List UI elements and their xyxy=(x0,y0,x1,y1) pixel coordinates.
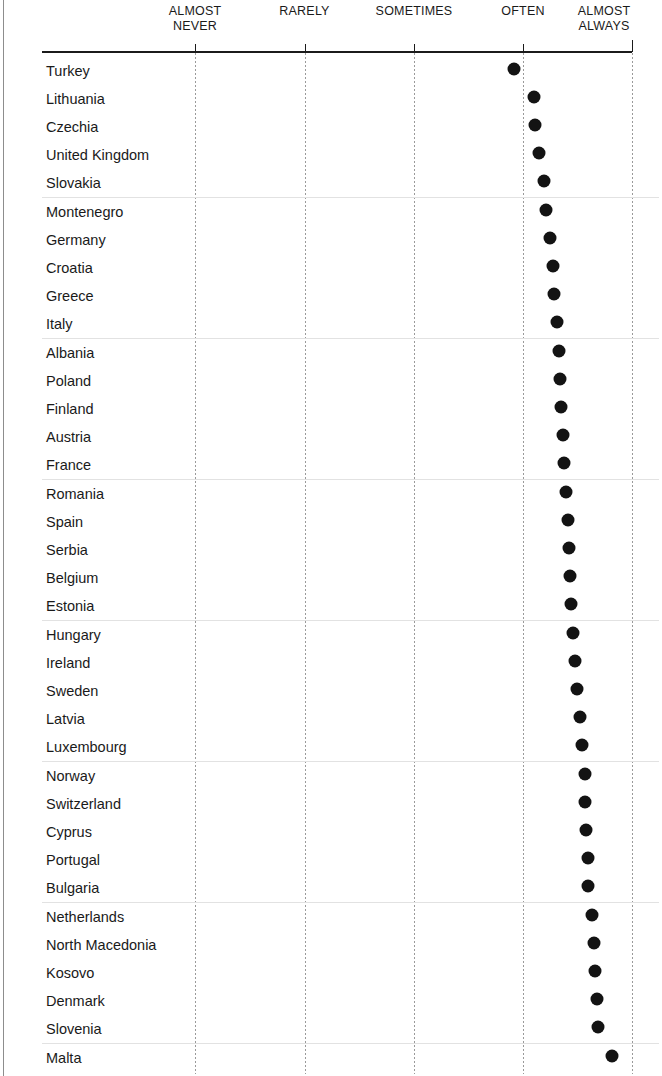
vertical-gridline-2 xyxy=(305,53,306,1074)
chart-page: ALMOST NEVERRARELYSOMETIMESOFTENALMOST A… xyxy=(0,0,662,1076)
horizontal-gridline xyxy=(42,620,659,621)
vertical-gridline-3 xyxy=(414,53,415,1074)
axis-tick-label-3: SOMETIMES xyxy=(376,4,453,19)
data-point xyxy=(537,175,550,188)
axis-tick-4 xyxy=(523,44,524,52)
data-point xyxy=(563,570,576,583)
horizontal-gridline xyxy=(42,761,659,762)
category-label: Italy xyxy=(46,316,73,332)
category-label: Greece xyxy=(46,288,94,304)
category-label: Cyprus xyxy=(46,824,92,840)
data-point xyxy=(554,400,567,413)
data-point xyxy=(557,429,570,442)
category-label: Croatia xyxy=(46,260,93,276)
axis-header xyxy=(0,0,662,46)
data-point xyxy=(606,1049,619,1062)
category-label: Portugal xyxy=(46,852,100,868)
data-point xyxy=(567,626,580,639)
category-label: Montenegro xyxy=(46,204,123,220)
data-point xyxy=(579,767,592,780)
category-label: Sweden xyxy=(46,683,98,699)
category-label: Switzerland xyxy=(46,796,121,812)
data-point xyxy=(550,316,563,329)
data-point xyxy=(580,823,593,836)
category-label: Spain xyxy=(46,514,83,530)
data-point xyxy=(569,654,582,667)
data-point xyxy=(561,513,574,526)
category-label: Norway xyxy=(46,768,95,784)
axis-tick-label-1: ALMOST NEVER xyxy=(169,4,222,33)
category-label: Kosovo xyxy=(46,965,94,981)
data-point xyxy=(548,288,561,301)
category-label: Serbia xyxy=(46,542,88,558)
horizontal-gridline xyxy=(42,338,659,339)
vertical-gridline-5 xyxy=(632,53,633,1074)
category-label: France xyxy=(46,457,91,473)
category-label: Bulgaria xyxy=(46,880,99,896)
category-label: Estonia xyxy=(46,598,94,614)
data-point xyxy=(575,739,588,752)
data-point xyxy=(587,936,600,949)
data-point xyxy=(560,485,573,498)
category-label: Slovenia xyxy=(46,1021,102,1037)
category-label: Latvia xyxy=(46,711,85,727)
category-label: Albania xyxy=(46,345,94,361)
axis-tick-5 xyxy=(632,40,633,52)
category-label: Netherlands xyxy=(46,909,124,925)
axis-tick-label-4: OFTEN xyxy=(501,4,544,19)
data-point xyxy=(527,90,540,103)
axis-line xyxy=(42,51,632,53)
horizontal-gridline xyxy=(42,1043,659,1044)
category-label: North Macedonia xyxy=(46,937,156,953)
data-point xyxy=(547,259,560,272)
page-edge-line xyxy=(3,0,4,1076)
category-label: Finland xyxy=(46,401,94,417)
data-point xyxy=(573,711,586,724)
axis-tick-1 xyxy=(195,44,196,52)
axis-tick-3 xyxy=(414,44,415,52)
data-point xyxy=(558,457,571,470)
category-label: Turkey xyxy=(46,63,90,79)
category-label: Austria xyxy=(46,429,91,445)
data-point xyxy=(553,372,566,385)
horizontal-gridline xyxy=(42,902,659,903)
vertical-gridline-4 xyxy=(523,53,524,1074)
category-label: Ireland xyxy=(46,655,90,671)
horizontal-gridline xyxy=(42,197,659,198)
data-point xyxy=(585,908,598,921)
category-label: Malta xyxy=(46,1050,81,1066)
data-point xyxy=(544,231,557,244)
data-point xyxy=(592,1021,605,1034)
category-label: Lithuania xyxy=(46,91,105,107)
data-point xyxy=(508,62,521,75)
data-point xyxy=(562,541,575,554)
data-point xyxy=(539,203,552,216)
category-label: Denmark xyxy=(46,993,105,1009)
category-label: Luxembourg xyxy=(46,739,127,755)
category-label: Poland xyxy=(46,373,91,389)
category-label: Germany xyxy=(46,232,106,248)
category-label: Romania xyxy=(46,486,104,502)
data-point xyxy=(591,993,604,1006)
category-label: United Kingdom xyxy=(46,147,149,163)
data-point xyxy=(571,682,584,695)
category-label: Hungary xyxy=(46,627,101,643)
axis-tick-2 xyxy=(305,44,306,52)
category-label: Slovakia xyxy=(46,175,101,191)
data-point xyxy=(528,118,541,131)
vertical-gridline-1 xyxy=(195,53,196,1074)
axis-tick-label-5: ALMOST ALWAYS xyxy=(578,4,631,33)
axis-tick-label-2: RARELY xyxy=(279,4,329,19)
category-label: Belgium xyxy=(46,570,98,586)
data-point xyxy=(588,964,601,977)
horizontal-gridline xyxy=(42,479,659,480)
data-point xyxy=(582,852,595,865)
data-point xyxy=(579,795,592,808)
data-point xyxy=(533,147,546,160)
data-point xyxy=(582,880,595,893)
data-point xyxy=(552,344,565,357)
category-label: Czechia xyxy=(46,119,98,135)
data-point xyxy=(564,598,577,611)
